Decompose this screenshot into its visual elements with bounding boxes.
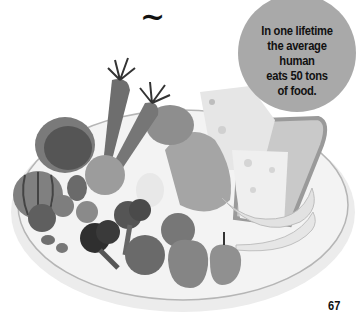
strawberry-icon (67, 175, 87, 201)
orange-icon (85, 155, 125, 195)
fact-line-3: eats 50 tons (254, 68, 340, 83)
fact-callout-bubble: In one lifetime the average human eats 5… (238, 0, 356, 112)
fact-callout-text: In one lifetime the average human eats 5… (254, 23, 340, 98)
cabbage-icon (35, 117, 95, 173)
fact-line-2: the average human (254, 38, 340, 68)
page-number: 67 (328, 298, 340, 313)
fact-line-1: In one lifetime (254, 23, 340, 38)
decorative-tilde: ~ (140, 2, 165, 32)
fact-line-4: of food. (254, 83, 340, 98)
